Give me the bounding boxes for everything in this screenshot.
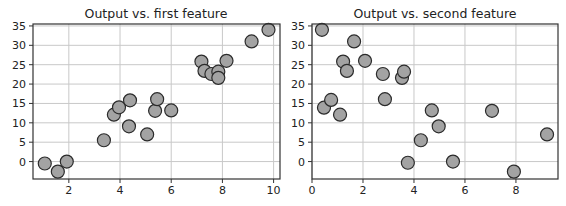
data-point: [432, 120, 445, 133]
data-point: [325, 93, 338, 106]
y-tick-label: 35: [291, 20, 305, 33]
x-tick-label: 10: [267, 184, 281, 197]
y-tick-label: 5: [19, 136, 26, 149]
x-tick-label: 8: [512, 184, 519, 197]
y-tick-label: 0: [298, 156, 305, 169]
y-tick-label: 15: [291, 97, 305, 110]
x-tick-label: 8: [219, 184, 226, 197]
data-points: [38, 23, 275, 178]
y-tick-label: 5: [298, 136, 305, 149]
data-point: [359, 54, 372, 67]
data-point: [165, 104, 178, 117]
x-tick-label: 2: [65, 184, 72, 197]
data-point: [485, 104, 498, 117]
figure: Output vs. first feature Output vs. seco…: [0, 0, 566, 206]
y-tick-label: 15: [12, 97, 26, 110]
data-point: [212, 71, 225, 84]
data-point: [425, 104, 438, 117]
data-point: [60, 155, 73, 168]
data-point: [376, 67, 389, 80]
y-tick-label: 25: [12, 59, 26, 72]
data-point: [245, 35, 258, 48]
data-point: [124, 94, 137, 107]
data-point: [149, 104, 162, 117]
x-tick-label: 2: [359, 184, 366, 197]
data-point: [340, 64, 353, 77]
data-point: [334, 108, 347, 121]
data-point: [507, 165, 520, 178]
data-point: [97, 134, 110, 147]
data-point: [220, 54, 233, 67]
y-tick-label: 35: [12, 20, 26, 33]
data-points: [315, 23, 553, 178]
y-tick-label: 30: [12, 39, 26, 52]
data-point: [541, 128, 554, 141]
axes-frame: [312, 24, 558, 179]
x-tick-label: 0: [309, 184, 316, 197]
data-point: [348, 35, 361, 48]
x-tick-label: 4: [410, 184, 417, 197]
plot-second-feature: 0246805101520253035: [291, 20, 558, 197]
data-point: [122, 120, 135, 133]
data-point: [38, 157, 51, 170]
data-point: [141, 128, 154, 141]
data-point: [315, 23, 328, 36]
data-point: [446, 155, 459, 168]
y-tick-label: 30: [291, 39, 305, 52]
gridlines: [312, 24, 558, 179]
y-tick-label: 20: [291, 78, 305, 91]
data-point: [401, 156, 414, 169]
y-tick-label: 10: [291, 117, 305, 130]
x-tick-label: 6: [461, 184, 468, 197]
data-point: [398, 65, 411, 78]
data-point: [414, 134, 427, 147]
y-tick-label: 20: [12, 78, 26, 91]
x-tick-label: 6: [168, 184, 175, 197]
y-tick-label: 10: [12, 117, 26, 130]
x-tick-label: 4: [117, 184, 124, 197]
data-point: [151, 93, 164, 106]
data-point: [378, 93, 391, 106]
data-point: [262, 23, 275, 36]
y-tick-label: 25: [291, 59, 305, 72]
scatter-plots: 246810051015202530350246805101520253035: [0, 0, 566, 206]
y-tick-label: 0: [19, 156, 26, 169]
plot-first-feature: 24681005101520253035: [12, 20, 281, 197]
